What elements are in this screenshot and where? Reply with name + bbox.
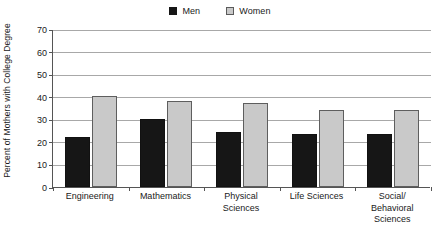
y-axis-tick-label: 10 [37,160,47,170]
y-axis-tick-label: 60 [37,48,47,58]
gridline [53,188,431,189]
y-axis-tick-label: 20 [37,138,47,148]
y-axis-tick-label: 70 [37,25,47,35]
legend-swatch-women-icon [226,7,234,15]
x-axis-category-label-line: Life Sciences [279,191,355,203]
gridline [53,30,431,31]
x-axis-category-label: Life Sciences [279,191,355,203]
bar-women-4 [394,110,419,187]
legend-label-men: Men [182,6,200,16]
bar-men-3 [292,134,317,187]
x-axis-category-label-line: Sciences [354,214,430,226]
chart-legend: Men Women [0,4,440,18]
y-axis-tick-mark [49,142,53,143]
x-axis-category-label-line: Sciences [203,203,279,215]
y-axis-tick-label: 40 [37,93,47,103]
bar-women-1 [167,101,192,187]
bar-chart: Men Women Percent of Mothers with Colleg… [0,0,440,236]
bar-men-4 [367,134,392,187]
bar-women-3 [319,110,344,187]
y-axis-title-text: Percent of Mothers with College Degree [3,23,12,178]
bar-women-0 [92,96,117,187]
x-axis-tick-mark [431,187,432,191]
gridline [53,75,431,76]
x-axis-category-label-line: Physical [203,191,279,203]
y-axis-tick-mark [49,52,53,53]
bar-men-1 [140,119,165,187]
legend-entry-women: Women [226,6,270,16]
x-axis-category-label-line: Mathematics [128,191,204,203]
bar-men-0 [65,137,90,187]
gridline [53,52,431,53]
bar-women-2 [243,103,268,187]
y-axis-tick-mark [49,97,53,98]
y-axis-tick-label: 50 [37,70,47,80]
x-axis-category-label-line: Social/ [354,191,430,203]
bar-men-2 [216,132,241,187]
plot-area: 010203040506070 [52,30,430,188]
x-axis-category-label: PhysicalSciences [203,191,279,214]
x-axis-category-label: Mathematics [128,191,204,203]
y-axis-tick-label: 30 [37,115,47,125]
legend-entry-men: Men [169,6,200,16]
x-axis-category-label: Engineering [52,191,128,203]
y-axis-tick-mark [49,120,53,121]
legend-label-women: Women [239,6,270,16]
y-axis-tick-mark [49,165,53,166]
y-axis-tick-label: 0 [42,183,47,193]
y-axis-title: Percent of Mothers with College Degree [0,0,14,200]
x-axis-category-label-line: Engineering [52,191,128,203]
y-axis-tick-mark [49,30,53,31]
legend-swatch-men-icon [169,7,177,15]
x-axis-category-label: Social/BehavioralSciences [354,191,430,226]
y-axis-tick-mark [49,75,53,76]
x-axis-category-label-line: Behavioral [354,203,430,215]
